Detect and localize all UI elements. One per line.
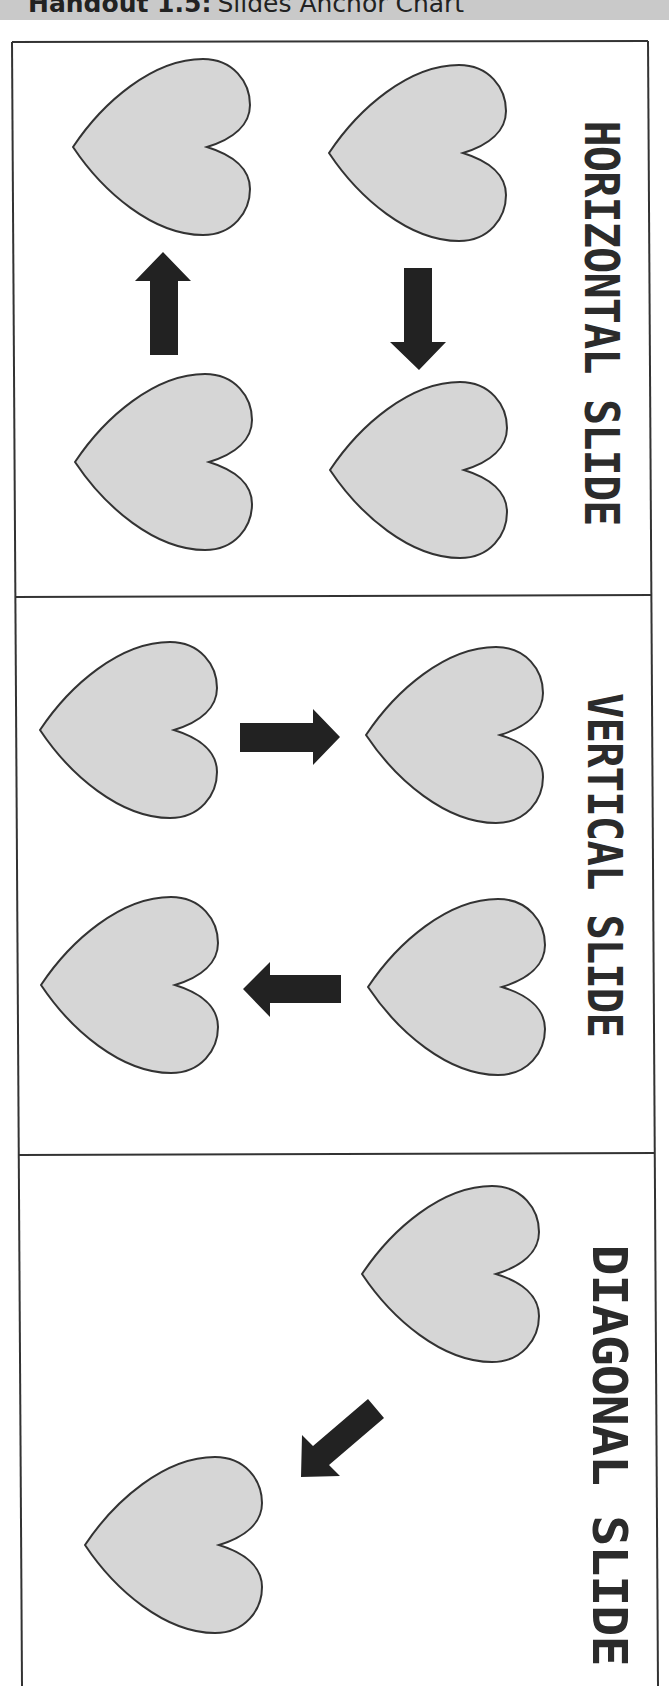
arrow-left-icon — [243, 962, 341, 1017]
frame-top-border — [12, 41, 648, 42]
arrow-right-icon — [240, 709, 340, 765]
frame-left-border — [12, 42, 22, 1686]
panel-divider-2 — [19, 1153, 655, 1155]
panel-label-horizontal: HORIZONTAL SLIDE — [574, 121, 630, 526]
arrow-down-left-icon — [301, 1399, 384, 1477]
heart-icon — [85, 1457, 262, 1633]
frame-right-border — [648, 41, 658, 1686]
anchor-chart: HORIZONTAL SLIDE VERTICAL SLIDE DIAGONAL… — [0, 0, 669, 1686]
heart-icon — [41, 897, 218, 1073]
panel-divider-1 — [15, 595, 652, 597]
heart-icon — [362, 1186, 539, 1362]
heart-icon — [329, 65, 506, 241]
heart-icon — [75, 374, 252, 550]
heart-icon — [40, 642, 217, 818]
arrow-down-icon — [390, 268, 446, 370]
heart-icon — [366, 647, 543, 823]
heart-icon — [368, 899, 545, 1075]
arrow-up-icon — [135, 252, 191, 355]
panel-vertical-slide: VERTICAL SLIDE — [40, 642, 633, 1075]
heart-icon — [73, 59, 250, 235]
heart-icon — [330, 382, 507, 558]
panel-label-diagonal: DIAGONAL SLIDE — [582, 1245, 638, 1666]
panel-horizontal-slide: HORIZONTAL SLIDE — [73, 59, 630, 558]
panel-diagonal-slide: DIAGONAL SLIDE — [85, 1186, 638, 1666]
panel-label-vertical: VERTICAL SLIDE — [577, 693, 633, 1037]
